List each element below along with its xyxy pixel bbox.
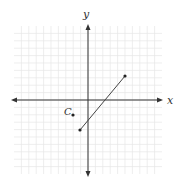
x-axis-label: x [167,94,174,107]
point-c [71,113,74,116]
y-axis-label: y [82,8,90,21]
x-axis-left-arrow-icon [11,98,17,103]
point-c-label: C [64,106,72,117]
coordinate-plane: x y C [0,0,181,186]
x-axis [11,98,163,103]
y-axis-top-arrow-icon [86,24,91,30]
x-axis-right-arrow-icon [157,98,163,103]
segment-endpoint-lower [78,128,81,131]
y-axis-bottom-arrow-icon [86,171,91,177]
segment-endpoint-upper [123,74,126,77]
